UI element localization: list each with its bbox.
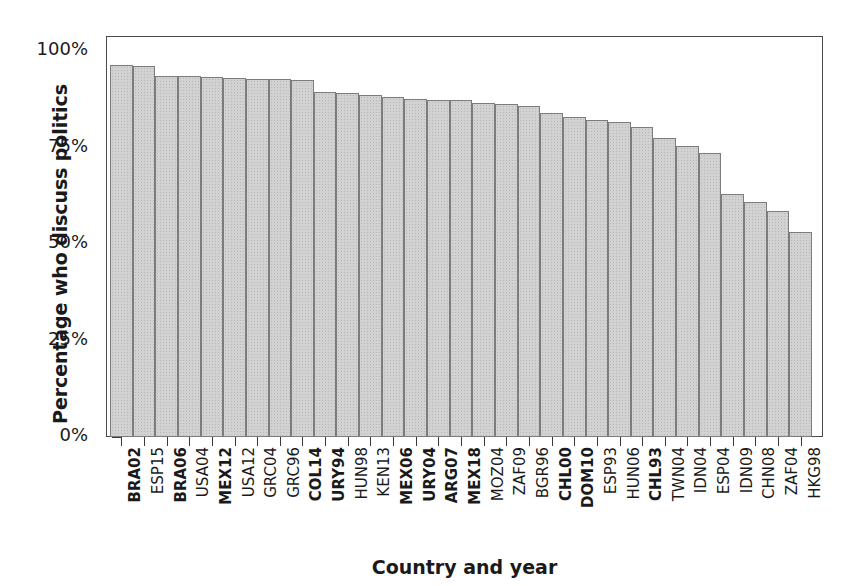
x-tick-mark <box>280 437 281 446</box>
bar <box>653 138 676 437</box>
x-tick-mark <box>257 437 258 446</box>
bar <box>133 66 156 437</box>
x-tick-label: ARG07 <box>444 447 460 547</box>
x-tick-label: USA12 <box>241 447 257 547</box>
x-tick-mark <box>574 437 575 446</box>
x-tick-label: KEN13 <box>376 447 392 547</box>
bar <box>495 104 518 437</box>
x-tick-mark <box>121 437 122 446</box>
x-tick-label: URY94 <box>331 447 347 547</box>
x-tick-label: IDN09 <box>739 447 755 547</box>
x-axis-ticks <box>106 437 823 447</box>
x-tick-mark <box>710 437 711 446</box>
x-tick-label: HKG98 <box>807 447 823 547</box>
x-tick-label: ZAF04 <box>784 447 800 547</box>
x-tick-label: MEX18 <box>467 447 483 547</box>
y-tick-label: 100% <box>16 40 88 58</box>
x-axis-title: Country and year <box>106 556 823 578</box>
bar <box>472 103 495 437</box>
x-tick-mark <box>212 437 213 446</box>
x-tick-mark <box>302 437 303 446</box>
bar <box>155 76 178 437</box>
y-tick-label: 75% <box>16 137 88 155</box>
x-tick-mark <box>529 437 530 446</box>
bar <box>404 99 427 437</box>
x-tick-mark <box>506 437 507 446</box>
bar <box>699 153 722 437</box>
bar <box>450 100 473 437</box>
x-tick-label: ESP04 <box>716 447 732 547</box>
y-tick-label: 25% <box>16 330 88 348</box>
x-tick-label: TWN04 <box>671 447 687 547</box>
bar <box>291 80 314 437</box>
x-tick-label: HUN06 <box>626 447 642 547</box>
x-tick-label: BRA06 <box>173 447 189 547</box>
bar <box>767 211 790 437</box>
x-tick-label: GRC96 <box>286 447 302 547</box>
bar <box>631 127 654 437</box>
x-tick-label: CHL93 <box>648 447 664 547</box>
y-tick-label: 0% <box>16 426 88 444</box>
bar <box>110 65 133 437</box>
x-tick-label: HUN98 <box>354 447 370 547</box>
x-tick-label: URY04 <box>422 447 438 547</box>
bar <box>789 232 812 437</box>
x-tick-mark <box>733 437 734 446</box>
x-tick-mark <box>167 437 168 446</box>
x-tick-mark <box>801 437 802 446</box>
x-tick-mark <box>620 437 621 446</box>
x-tick-mark <box>438 437 439 446</box>
bar-chart: Percentage who discuss politics 0%25%50%… <box>0 0 849 586</box>
x-tick-mark <box>144 437 145 446</box>
bar <box>336 93 359 437</box>
x-tick-label: COL14 <box>308 447 324 547</box>
x-tick-label: CHN08 <box>761 447 777 547</box>
x-tick-label: MEX12 <box>218 447 234 547</box>
x-tick-label: MOZ04 <box>490 447 506 547</box>
bars-container <box>106 36 823 437</box>
x-tick-label: DOM10 <box>580 447 596 547</box>
x-tick-mark <box>778 437 779 446</box>
x-tick-mark <box>416 437 417 446</box>
bar <box>359 95 382 437</box>
x-axis-tick-labels: BRA02ESP15BRA06USA04MEX12USA12GRC04GRC96… <box>106 447 823 552</box>
x-tick-label: BGR96 <box>535 447 551 547</box>
bar <box>540 113 563 437</box>
bar <box>223 78 246 437</box>
x-tick-label: USA04 <box>195 447 211 547</box>
x-tick-label: CHL00 <box>558 447 574 547</box>
x-tick-mark <box>325 437 326 446</box>
x-tick-mark <box>189 437 190 446</box>
bar <box>744 202 767 437</box>
bar <box>586 120 609 437</box>
x-tick-mark <box>393 437 394 446</box>
x-tick-mark <box>665 437 666 446</box>
bar <box>518 106 541 437</box>
x-tick-mark <box>235 437 236 446</box>
bar <box>721 194 744 437</box>
x-tick-label: MEX06 <box>399 447 415 547</box>
x-tick-label: IDN04 <box>693 447 709 547</box>
bar <box>608 122 631 437</box>
x-tick-mark <box>484 437 485 446</box>
x-tick-mark <box>552 437 553 446</box>
bar <box>178 76 201 437</box>
bar <box>246 79 269 437</box>
bar <box>563 117 586 437</box>
bar <box>427 100 450 437</box>
x-tick-mark <box>348 437 349 446</box>
bar <box>314 92 337 437</box>
x-tick-label: ESP15 <box>150 447 166 547</box>
x-tick-mark <box>370 437 371 446</box>
x-tick-mark <box>461 437 462 446</box>
x-tick-label: ZAF09 <box>512 447 528 547</box>
x-tick-mark <box>755 437 756 446</box>
x-tick-mark <box>642 437 643 446</box>
y-axis-tick-labels: 0%25%50%75%100% <box>16 0 88 586</box>
x-tick-label: BRA02 <box>127 447 143 547</box>
bar <box>201 77 224 437</box>
bar <box>269 79 292 437</box>
bar <box>676 146 699 437</box>
x-tick-label: GRC04 <box>263 447 279 547</box>
x-tick-mark <box>687 437 688 446</box>
